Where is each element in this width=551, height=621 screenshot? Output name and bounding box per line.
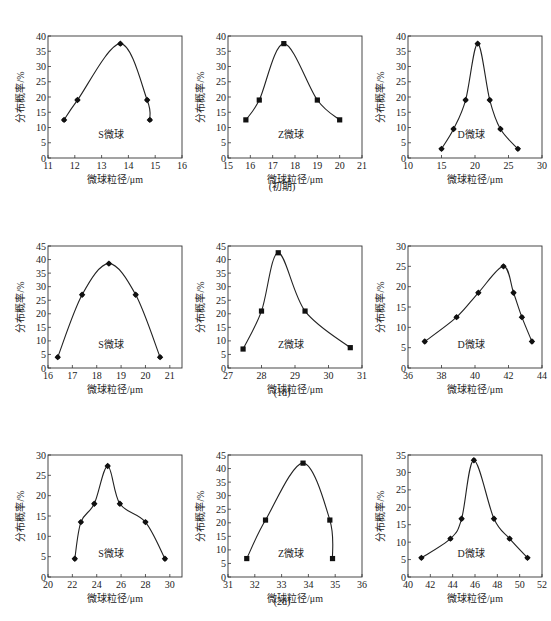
y-tick-label: 20 [216,308,226,319]
y-tick-label: 5 [221,349,226,360]
series-label: S微球 [98,128,124,140]
y-tick-label: 10 [36,335,46,346]
x-tick-label: 30 [537,160,547,171]
x-tick-label: 48 [492,579,502,590]
y-tick-label: 5 [41,551,46,562]
y-tick-label: 40 [36,254,46,265]
x-tick-label: 26 [116,579,126,590]
y-tick-label: 10 [216,122,226,133]
series-label: D微球 [457,547,484,559]
row-caption-1d: (1d) [222,387,342,398]
data-curve [246,44,340,120]
y-tick-label: 10 [36,122,46,133]
x-tick-label: 52 [537,579,547,590]
y-tick-label: 40 [36,31,46,42]
y-tick-label: 5 [401,554,406,565]
y-tick-label: 20 [396,92,406,103]
data-curve [75,466,165,559]
y-axis-label: 分布概率/% [14,71,26,122]
y-tick-label: 40 [216,254,226,265]
x-axis-label: 微球粒径/μm [87,383,143,395]
series-label: S微球 [98,338,124,350]
y-axis-label: 分布概率/% [374,281,386,332]
x-tick-label: 28 [257,370,267,381]
square-marker-icon [243,117,248,122]
x-tick-label: 17 [67,370,77,381]
y-tick-label: 10 [216,544,226,555]
y-tick-label: 15 [36,322,46,333]
chart-S微球-2: 051015202530202224262830微球粒径/μm分布概率/%S微球 [3,443,193,621]
x-tick-label: 11 [43,160,53,171]
x-axis-label: 微球粒径/μm [87,173,143,185]
chart-Z微球-2: 051015202530354045313233343536微球粒径/μm分布概… [183,443,373,621]
y-tick-label: 35 [36,46,46,57]
x-tick-label: 19 [116,370,126,381]
y-tick-label: 35 [396,46,406,57]
y-tick-label: 30 [216,281,226,292]
y-tick-label: 30 [36,281,46,292]
x-tick-label: 18 [92,370,102,381]
y-tick-label: 5 [41,137,46,148]
chart-S微球-1: 051015202530354045161718192021微球粒径/μm分布概… [3,234,193,434]
x-tick-label: 42 [425,579,435,590]
x-tick-label: 16 [245,160,255,171]
y-tick-label: 35 [216,46,226,57]
y-axis-label: 分布概率/% [194,281,206,332]
y-tick-label: 45 [36,241,46,252]
y-axis-label: 分布概率/% [14,281,26,332]
x-tick-label: 38 [437,370,447,381]
x-tick-label: 20 [470,160,480,171]
square-marker-icon [244,556,249,561]
x-tick-label: 40 [403,579,413,590]
x-tick-label: 20 [43,579,53,590]
square-marker-icon [330,556,335,561]
y-tick-label: 30 [36,450,46,461]
x-axis-label: 微球粒径/μm [447,592,503,604]
y-tick-label: 25 [216,76,226,87]
y-tick-label: 25 [396,261,406,272]
square-marker-icon [276,250,281,255]
y-tick-label: 15 [216,322,226,333]
y-tick-label: 25 [396,76,406,87]
y-tick-label: 30 [396,241,406,252]
y-tick-label: 25 [36,470,46,481]
x-tick-label: 16 [43,370,53,381]
y-tick-label: 5 [401,137,406,148]
chart-D微球-2: 0510152025303540424446485052微球粒径/μm分布概率/… [363,443,551,621]
x-tick-label: 28 [140,579,150,590]
x-tick-label: 50 [515,579,525,590]
series-label: D微球 [457,128,484,140]
chart-Z微球-1: 0510152025303540452728293031微球粒径/μm分布概率/… [183,234,373,434]
x-tick-label: 34 [303,579,313,590]
x-tick-label: 42 [504,370,514,381]
x-tick-label: 32 [250,579,260,590]
square-marker-icon [302,308,307,313]
y-tick-label: 20 [396,281,406,292]
square-marker-icon [337,117,342,122]
x-tick-label: 10 [403,160,413,171]
x-tick-label: 14 [123,160,133,171]
y-tick-label: 5 [401,342,406,353]
square-marker-icon [327,517,332,522]
y-tick-label: 25 [216,295,226,306]
y-tick-label: 5 [41,349,46,360]
y-tick-label: 40 [396,31,406,42]
square-marker-icon [257,97,262,102]
x-tick-label: 30 [324,370,334,381]
y-tick-label: 40 [216,463,226,474]
series-label: D微球 [457,338,484,350]
row-caption-2d: (2d) [222,596,342,607]
y-tick-label: 20 [36,92,46,103]
y-tick-label: 15 [396,107,406,118]
y-tick-label: 45 [216,241,226,252]
y-tick-label: 10 [36,531,46,542]
x-tick-label: 22 [67,579,77,590]
data-curve [421,460,527,558]
y-tick-label: 15 [36,511,46,522]
y-tick-label: 30 [36,61,46,72]
x-tick-label: 44 [448,579,458,590]
x-axis-label: 微球粒径/μm [447,383,503,395]
x-tick-label: 15 [437,160,447,171]
square-marker-icon [281,41,286,46]
x-tick-label: 20 [140,370,150,381]
